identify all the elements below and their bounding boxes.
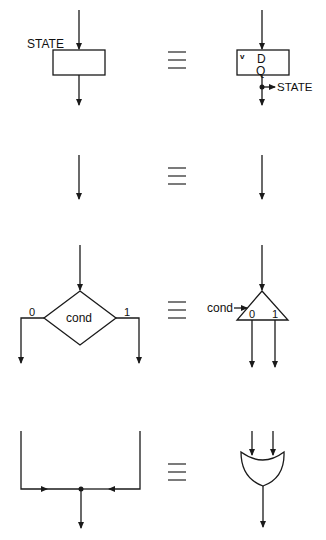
true-label: 1 xyxy=(124,306,130,318)
false-label: 0 xyxy=(29,306,35,318)
out1-label: 1 xyxy=(272,308,278,320)
equiv-symbol-3 xyxy=(168,302,186,318)
cond-label: cond xyxy=(66,311,92,325)
right-merge-path xyxy=(109,431,140,489)
junction-element xyxy=(21,431,140,528)
true-branch-arrow xyxy=(116,318,139,363)
equiv-symbol-1 xyxy=(168,52,186,68)
false-branch-arrow xyxy=(21,318,44,363)
state-box xyxy=(53,50,105,75)
demux-element: cond 0 1 xyxy=(207,245,288,367)
asm-diagram: STATE v D Q STATE cond 0 1 xyxy=(0,0,326,540)
equiv-symbol-2 xyxy=(168,168,186,184)
d-flip-flop-element: v D Q STATE xyxy=(237,10,313,105)
q-output-label: Q xyxy=(256,64,265,78)
select-label: cond xyxy=(207,301,233,315)
out0-label: 0 xyxy=(249,308,255,320)
or-gate-shape xyxy=(241,452,284,486)
clock-mark: v xyxy=(240,52,245,61)
equiv-symbol-4 xyxy=(168,464,186,480)
demux-triangle xyxy=(237,291,288,320)
state-label: STATE xyxy=(27,37,64,51)
state-box-element: STATE xyxy=(27,10,105,105)
or-gate-element xyxy=(241,431,284,527)
state-output-label: STATE xyxy=(277,81,313,93)
decision-element: cond 0 1 xyxy=(21,245,139,363)
left-merge-path xyxy=(21,431,47,489)
